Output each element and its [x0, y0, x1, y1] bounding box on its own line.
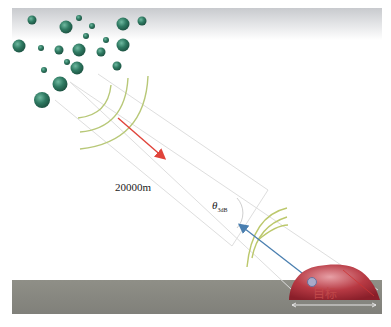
theta-subscript: 3dB [217, 207, 227, 213]
return-arrow [240, 225, 311, 280]
beam-angle-arc [237, 198, 243, 228]
beam-angle-label: θ3dB [212, 199, 227, 213]
radar-beam-diagram [0, 0, 391, 327]
target-label: 目标 [313, 284, 337, 301]
transmit-arrow [118, 118, 164, 158]
distance-label: 20000m [115, 181, 151, 193]
transmit-wavefronts [78, 76, 148, 149]
